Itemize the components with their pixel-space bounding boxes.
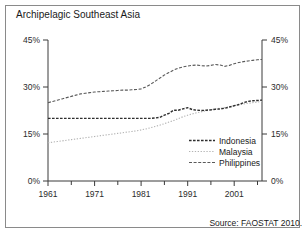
y-axis-right-label-15: 15% — [271, 129, 288, 139]
source-caption: Source: FAOSTAT 2010. — [209, 218, 302, 228]
x-axis-label-1971: 1971 — [85, 189, 104, 199]
y-axis-left-label-0: 0% — [28, 176, 41, 186]
x-axis-label-1991: 1991 — [178, 189, 197, 199]
x-axis-ticks — [48, 181, 258, 186]
y-axis-left-label-15: 15% — [23, 129, 40, 139]
y-axis-right-label-45: 45% — [271, 35, 288, 45]
series-line-philippines — [48, 59, 262, 102]
y-axis-right-ticks — [262, 40, 267, 181]
x-axis-label-1981: 1981 — [132, 189, 151, 199]
y-axis-right-label-30: 30% — [271, 82, 288, 92]
chart-plot-area: 45% 30% 15% 0% 45% 30% 15% 0% 1961 1971 … — [0, 0, 307, 235]
legend-label-malaysia: Malaysia — [219, 147, 253, 157]
chart-legend: Indonesia Malaysia Philippines — [189, 136, 260, 168]
y-axis-right-label-0: 0% — [271, 176, 284, 186]
x-axis-label-2001: 2001 — [225, 189, 244, 199]
x-axis-label-1961: 1961 — [39, 189, 58, 199]
legend-label-indonesia: Indonesia — [219, 136, 256, 146]
y-axis-left-label-45: 45% — [23, 35, 40, 45]
series-line-indonesia — [48, 100, 262, 118]
y-axis-left-ticks — [43, 40, 48, 181]
legend-label-philippines: Philippines — [219, 158, 260, 168]
y-axis-left-label-30: 30% — [23, 82, 40, 92]
